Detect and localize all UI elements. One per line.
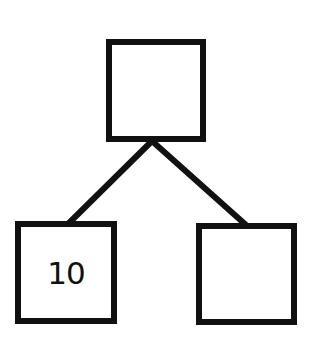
right-part-box[interactable] — [196, 223, 297, 325]
edge-top-to-left — [69, 141, 152, 223]
left-part-box[interactable]: 10 — [15, 221, 117, 324]
number-bond-diagram: 10 — [0, 0, 319, 356]
whole-box[interactable] — [106, 39, 206, 142]
edge-top-to-right — [152, 141, 246, 225]
